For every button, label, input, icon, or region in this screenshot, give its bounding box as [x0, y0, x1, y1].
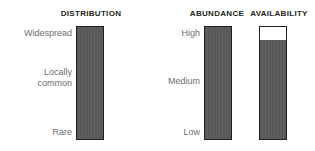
scale-label-rare: Rare [2, 127, 72, 138]
bar-distribution [76, 26, 104, 140]
scale-label-locally-common: Locally common [2, 67, 72, 89]
bar-availability [259, 26, 287, 140]
bar-abundance [204, 26, 232, 140]
bar-distribution-fill [77, 27, 103, 139]
bar-availability-fill [260, 40, 286, 139]
panel-title-availability: AVAILABILITY [243, 9, 315, 18]
scale-label-medium: Medium [155, 76, 200, 87]
bar-abundance-fill [205, 27, 231, 139]
status-indicator-figure: DISTRIBUTION Widespread Locally common R… [0, 0, 315, 151]
bar-availability-empty [260, 27, 286, 40]
scale-label-low: Low [160, 127, 200, 138]
panel-title-distribution: DISTRIBUTION [46, 9, 136, 18]
scale-label-high: High [160, 28, 200, 39]
scale-label-locally-common-line2: common [2, 78, 72, 89]
scale-label-widespread: Widespread [2, 28, 72, 39]
scale-label-locally-common-line1: Locally [2, 67, 72, 78]
